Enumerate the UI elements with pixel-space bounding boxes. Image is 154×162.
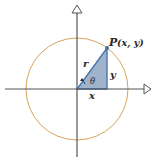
point-coords-label: (x, y) xyxy=(117,37,144,49)
unit-circle-diagram: P (x, y) r y x θ xyxy=(0,0,154,162)
horizontal-leg-label: x xyxy=(88,90,96,101)
angle-label: θ xyxy=(90,76,95,86)
y-axis-arrow-icon xyxy=(72,5,82,13)
x-axis-arrow-icon xyxy=(144,84,151,94)
vertical-leg-label: y xyxy=(109,69,117,80)
hypotenuse-label: r xyxy=(83,58,89,69)
